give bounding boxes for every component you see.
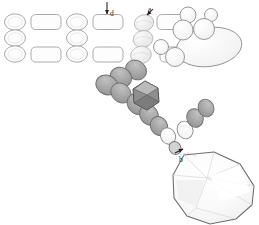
grid-row-1 [5, 14, 188, 30]
round-bead [154, 40, 169, 55]
grid-row-2 [5, 30, 88, 46]
bead-layout-grid [5, 14, 193, 62]
tube-bead-cell [31, 47, 61, 62]
bead-diagram-svg [0, 0, 259, 225]
round-bead-cell [67, 46, 88, 62]
round-bead-cell [67, 14, 88, 30]
faceted-pear-pendant [173, 152, 254, 224]
figure-canvas: a d b [0, 0, 259, 225]
callout-label-d: d [110, 10, 114, 18]
round-bead-cell [5, 30, 26, 46]
round-bead-cell [5, 14, 26, 30]
round-bead [173, 20, 193, 40]
diagonal-bead-strand [93, 56, 217, 156]
callout-label-b: b [179, 156, 183, 164]
round-bead-cell [67, 30, 88, 46]
tube-bead-cell [93, 15, 123, 30]
round-bead [194, 19, 215, 40]
bead-column-stack [129, 12, 156, 65]
callout-label-a: a [148, 6, 151, 14]
round-bead-cell [5, 46, 26, 62]
tube-bead-cell [93, 47, 123, 62]
round-bead [166, 48, 185, 67]
tube-bead-cell [31, 15, 61, 30]
